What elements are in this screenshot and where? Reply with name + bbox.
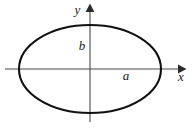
ellipse-diagram-canvas: y x b a	[0, 0, 193, 130]
semi-major-axis-label: a	[123, 68, 130, 83]
ellipse-figure: y x b a	[0, 0, 193, 130]
y-axis-label: y	[73, 2, 81, 17]
y-axis-arrowhead-icon	[86, 4, 95, 13]
semi-minor-axis-label: b	[79, 38, 86, 53]
x-axis-label: x	[177, 69, 184, 84]
